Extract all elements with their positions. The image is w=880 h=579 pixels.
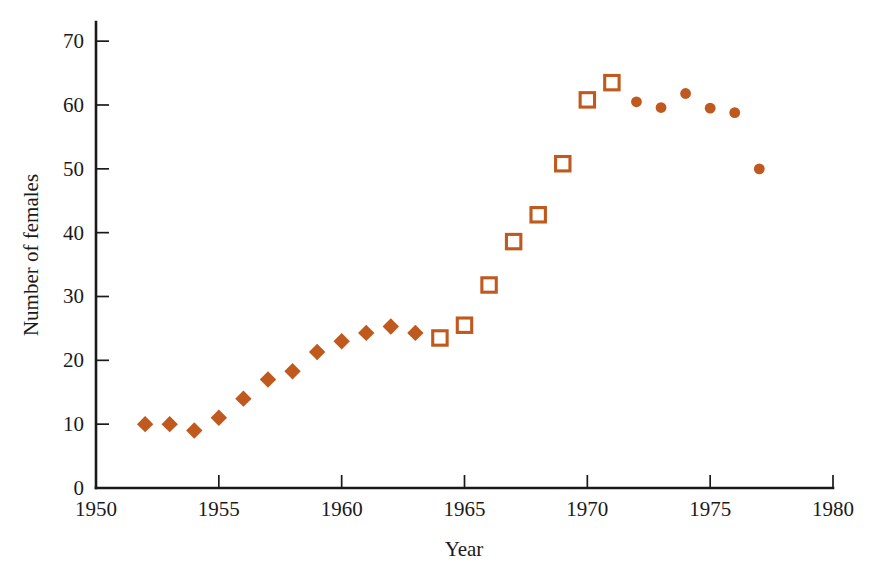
data-point-square — [457, 318, 471, 332]
data-point-circle — [754, 163, 765, 174]
data-point-diamond — [211, 410, 227, 426]
data-point-diamond — [309, 344, 325, 360]
plot-axes — [96, 22, 833, 488]
data-point-circle — [705, 103, 716, 114]
y-axis-title: Number of females — [19, 174, 43, 336]
x-axis-title: Year — [445, 537, 484, 561]
y-tick-label: 40 — [63, 221, 84, 245]
y-tick-label: 50 — [63, 157, 84, 181]
data-point-square — [605, 75, 619, 89]
x-tick-label: 1960 — [321, 497, 363, 521]
y-tick-label: 70 — [63, 29, 84, 53]
data-point-diamond — [407, 325, 423, 341]
data-point-diamond — [358, 325, 374, 341]
data-point-circle — [631, 96, 642, 107]
data-markers — [137, 75, 765, 438]
y-tick-label: 60 — [63, 93, 84, 117]
data-point-circle — [656, 102, 667, 113]
chart-container: 010203040506070 195019551960196519701975… — [0, 0, 880, 579]
data-point-square — [556, 157, 570, 171]
data-point-circle — [680, 88, 691, 99]
data-point-diamond — [137, 416, 153, 432]
x-tick-label: 1975 — [689, 497, 731, 521]
data-point-square — [482, 278, 496, 292]
data-point-diamond — [235, 390, 251, 406]
x-tick-label: 1965 — [444, 497, 486, 521]
y-axis-ticks: 010203040506070 — [63, 29, 109, 500]
x-tick-label: 1950 — [75, 497, 117, 521]
x-axis-ticks: 1950195519601965197019751980 — [75, 475, 854, 521]
data-point-diamond — [333, 333, 349, 349]
data-point-diamond — [284, 363, 300, 379]
y-tick-label: 30 — [63, 284, 84, 308]
data-point-square — [531, 208, 545, 222]
data-point-diamond — [260, 371, 276, 387]
x-tick-label: 1955 — [198, 497, 240, 521]
x-tick-label: 1980 — [812, 497, 854, 521]
data-point-square — [580, 93, 594, 107]
x-tick-label: 1970 — [566, 497, 608, 521]
y-tick-label: 10 — [63, 412, 84, 436]
data-point-square — [433, 331, 447, 345]
data-point-diamond — [186, 422, 202, 438]
scatter-plot: 010203040506070 195019551960196519701975… — [0, 0, 880, 579]
data-point-square — [506, 234, 520, 248]
data-point-circle — [729, 107, 740, 118]
y-tick-label: 20 — [63, 348, 84, 372]
data-point-diamond — [162, 416, 178, 432]
data-point-diamond — [383, 318, 399, 334]
